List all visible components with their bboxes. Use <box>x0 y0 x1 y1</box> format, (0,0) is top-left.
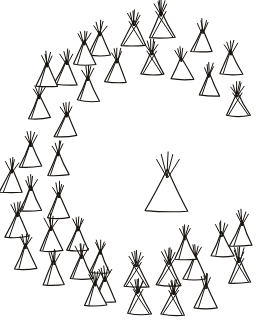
camp-circle-canvas <box>0 0 263 329</box>
tipi-camp-illustration <box>0 0 263 329</box>
tipi-lodge-pole <box>66 103 67 117</box>
tipi-lodge-pole <box>202 18 203 33</box>
